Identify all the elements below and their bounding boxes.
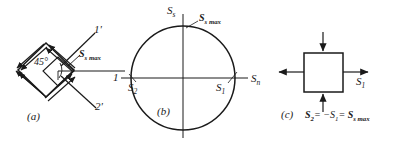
panel-a-leader-2prime xyxy=(61,76,96,108)
panel-b-label-shear-max: Ss max xyxy=(199,13,221,26)
panel-c-label-stress-1: S1 xyxy=(356,76,365,90)
panel-c-relation-equation: S2= −S1= Ss max xyxy=(305,110,370,123)
panel-c-relation-shear-subscript: s max xyxy=(353,115,369,122)
panel-b-shear-max-subscript: s max xyxy=(205,18,221,25)
panel-b-label-horizontal-axis: Sn xyxy=(251,73,260,87)
panel-c-relation-eq1: = −S xyxy=(314,109,335,120)
figure-container: 1' 2' 1 45° Ss max (a) Ss Ss max S2 S1 S… xyxy=(0,0,397,142)
panel-b-label-vertical-axis: Ss xyxy=(167,5,175,19)
panel-c-square-element xyxy=(304,53,343,92)
panel-a-shear-max-subscript: s max xyxy=(85,54,101,61)
panel-c-relation-eq2: = xyxy=(338,109,345,120)
panel-a-tag: (a) xyxy=(27,110,40,122)
panel-a-label-angle: 45° xyxy=(34,57,48,67)
panel-b-tag: (b) xyxy=(157,105,170,117)
panel-b-graphics xyxy=(121,14,248,138)
panel-a-shear-arrows xyxy=(16,44,75,101)
panel-c-graphics xyxy=(279,32,368,112)
panel-c-tag: (c) xyxy=(281,108,293,120)
panel-b-label-stress-2: S2 xyxy=(128,82,137,96)
panel-a-label-1-prime: 1' xyxy=(94,24,102,35)
panel-b-stress-2-subscript: 2 xyxy=(134,87,138,96)
panel-c-stress-1-subscript: 1 xyxy=(362,81,366,90)
panel-a-diamond-element xyxy=(18,43,74,97)
panel-a-label-shear-max: Ss max xyxy=(79,49,101,62)
panel-b-stress-1-subscript: 1 xyxy=(222,87,226,96)
panel-b-vertical-axis-subscript: s xyxy=(173,10,176,19)
panel-b-label-stress-1: S1 xyxy=(216,82,225,96)
panel-a-label-2-prime: 2' xyxy=(95,101,103,112)
panel-a-label-axis-1: 1 xyxy=(113,72,119,83)
panel-b-horizontal-axis-subscript: n xyxy=(257,78,261,87)
panel-a-graphics xyxy=(16,33,125,108)
